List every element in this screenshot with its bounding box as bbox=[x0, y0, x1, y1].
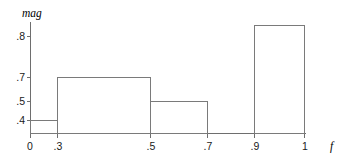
x-tick-label-0: 0 bbox=[27, 140, 33, 152]
y-tick-label-3: .4 bbox=[16, 114, 25, 126]
y-tick-label-2: .5 bbox=[16, 95, 25, 107]
x-tick-label-4: .9 bbox=[251, 140, 260, 152]
chart-canvas: .8 .7 .5 .4 0 .3 .5 .7 .9 1 mag f bbox=[0, 0, 351, 158]
histogram-figure: .8 .7 .5 .4 0 .3 .5 .7 .9 1 mag f bbox=[0, 0, 351, 158]
x-tick-label-1: .3 bbox=[54, 140, 63, 152]
x-tick-label-5: 1 bbox=[302, 140, 308, 152]
x-tick-label-2: .5 bbox=[147, 140, 156, 152]
y-tick-label-1: .7 bbox=[16, 71, 25, 83]
bar-bin-1 bbox=[58, 78, 151, 134]
bar-bin-2 bbox=[151, 102, 208, 134]
bar-bin-4 bbox=[255, 26, 305, 134]
y-axis-title: mag bbox=[22, 7, 42, 20]
x-axis-title: f bbox=[330, 140, 335, 153]
bar-bin-0 bbox=[31, 121, 58, 134]
y-tick-label-0: .8 bbox=[16, 30, 25, 42]
x-tick-label-3: .7 bbox=[204, 140, 213, 152]
